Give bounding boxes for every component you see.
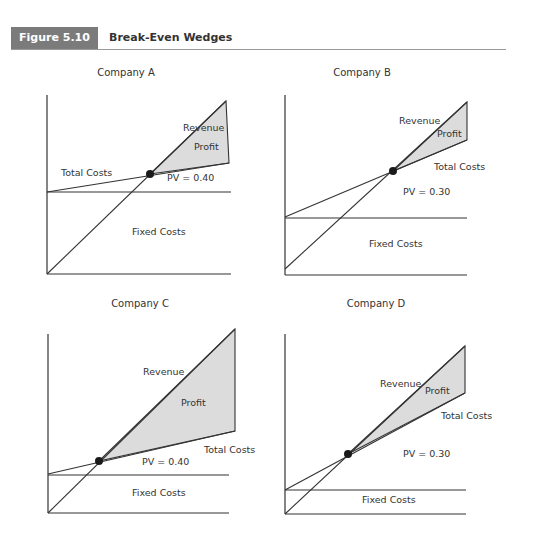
total-costs-label: Total Costs [440,410,492,421]
fixed-costs-label: Fixed Costs [132,226,186,237]
fixed-costs-label: Fixed Costs [362,494,416,505]
total-costs-line [285,140,467,217]
profit-label: Profit [181,397,206,408]
chart-title: Company A [97,67,155,78]
break-even-point [95,457,103,465]
revenue-label: Revenue [399,115,441,126]
total-costs-label: Total Costs [203,444,255,455]
charts-canvas: Company ARevenueProfitTotal CostsPV = 0.… [0,0,542,542]
chart-company-a: Company ARevenueProfitTotal CostsPV = 0.… [47,67,231,274]
revenue-label: Revenue [143,366,185,377]
total-costs-line [285,393,465,490]
revenue-line [285,346,465,514]
pv-label: PV = 0.40 [167,172,214,183]
total-costs-label: Total Costs [433,161,485,172]
fixed-costs-label: Fixed Costs [132,487,186,498]
chart-title: Company C [111,298,169,309]
chart-company-b: Company BRevenueProfitTotal CostsPV = 0.… [285,67,485,275]
revenue-label: Revenue [183,122,225,133]
profit-label: Profit [437,128,462,139]
break-even-point [344,450,352,458]
chart-company-d: Company DRevenueProfitTotal CostsPV = 0.… [285,298,492,514]
profit-label: Profit [425,385,450,396]
revenue-label: Revenue [380,378,422,389]
profit-label: Profit [194,141,219,152]
chart-title: Company D [347,298,406,309]
break-even-point [146,170,154,178]
chart-company-c: Company CRevenueProfitTotal CostsPV = 0.… [48,298,255,513]
pv-label: PV = 0.40 [142,456,189,467]
fixed-costs-label: Fixed Costs [369,238,423,249]
pv-label: PV = 0.30 [403,186,450,197]
pv-label: PV = 0.30 [403,448,450,459]
total-costs-label: Total Costs [60,167,112,178]
break-even-point [389,167,397,175]
chart-title: Company B [333,67,391,78]
